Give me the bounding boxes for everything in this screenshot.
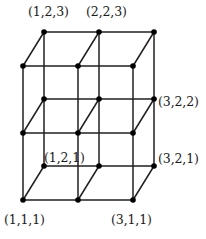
label-3-2-1: (3,2,1): [158, 153, 199, 166]
lattice-edge-y: [78, 166, 99, 200]
lattice-vertex: [96, 29, 102, 35]
lattice-figure: (1,2,3)(2,2,3)(3,2,2)(3,2,1)(1,2,1)(1,1,…: [0, 0, 206, 239]
lattice-vertex: [130, 63, 136, 69]
lattice-vertex: [41, 29, 47, 35]
lattice-vertex: [41, 96, 47, 102]
lattice-edge-y: [133, 99, 154, 133]
lattice-vertex: [151, 96, 157, 102]
lattice-edge-y: [78, 99, 99, 133]
label-2-2-3: (2,2,3): [86, 6, 127, 19]
lattice-edge-y: [78, 32, 99, 66]
lattice-edge-y: [23, 166, 44, 200]
lattice-vertex: [20, 63, 26, 69]
label-1-2-1: (1,2,1): [44, 152, 85, 165]
lattice-vertex: [130, 197, 136, 203]
lattice-vertex: [151, 163, 157, 169]
lattice-edge-y: [23, 32, 44, 66]
lattice-vertex: [151, 29, 157, 35]
lattice-vertex: [20, 197, 26, 203]
lattice-vertex: [75, 130, 81, 136]
label-1-2-3: (1,2,3): [28, 6, 69, 19]
label-1-1-1: (1,1,1): [4, 214, 45, 227]
lattice-vertex: [75, 197, 81, 203]
label-3-2-2: (3,2,2): [158, 96, 199, 109]
lattice-edge-y: [133, 166, 154, 200]
lattice-vertex: [75, 63, 81, 69]
lattice-vertex: [96, 163, 102, 169]
lattice-edges: [23, 32, 154, 200]
lattice-vertex: [130, 130, 136, 136]
lattice-vertex: [96, 96, 102, 102]
lattice-diagram: [0, 0, 206, 239]
lattice-vertex: [20, 130, 26, 136]
label-3-1-1: (3,1,1): [111, 214, 152, 227]
lattice-edge-y: [23, 99, 44, 133]
lattice-edge-y: [133, 32, 154, 66]
